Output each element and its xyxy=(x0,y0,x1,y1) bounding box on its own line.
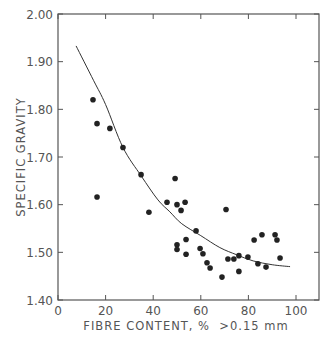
x-tick-label: 60 xyxy=(193,304,208,318)
data-point xyxy=(223,207,229,213)
data-point xyxy=(263,264,269,270)
data-points xyxy=(90,97,283,280)
data-point xyxy=(138,172,144,178)
data-point xyxy=(245,254,251,260)
x-axis-ticks: 020406080100 xyxy=(54,14,307,318)
data-point xyxy=(183,237,189,243)
fitted-curve xyxy=(76,46,290,267)
data-point xyxy=(94,194,100,200)
y-axis-label: SPECIFIC GRAVITY xyxy=(14,97,28,217)
data-point xyxy=(219,274,225,280)
scatter-chart: 1.401.501.601.701.801.902.00 02040608010… xyxy=(0,0,331,345)
data-point xyxy=(164,199,170,205)
data-point xyxy=(236,269,242,275)
data-point xyxy=(255,261,261,267)
data-point xyxy=(178,208,184,214)
x-tick-label: 40 xyxy=(146,304,161,318)
y-axis-ticks: 1.401.501.601.701.801.902.00 xyxy=(26,8,319,308)
data-point xyxy=(200,251,206,257)
data-point xyxy=(251,237,257,243)
x-tick-label: 100 xyxy=(285,304,308,318)
data-point xyxy=(231,256,237,262)
data-point xyxy=(236,253,242,259)
y-tick-label: 1.80 xyxy=(26,103,53,117)
data-point xyxy=(272,232,278,238)
data-point xyxy=(204,260,210,266)
data-point xyxy=(120,145,126,151)
y-tick-label: 1.70 xyxy=(26,151,53,165)
data-point xyxy=(225,256,231,262)
x-axis-label: FIBRE CONTENT, % >0.15 mm xyxy=(83,319,288,333)
data-point xyxy=(107,126,113,132)
y-tick-label: 1.40 xyxy=(26,294,53,308)
data-point xyxy=(183,251,189,257)
data-point xyxy=(197,246,203,252)
data-point xyxy=(277,255,283,261)
data-point xyxy=(172,176,178,182)
data-point xyxy=(94,121,100,127)
data-point xyxy=(193,228,199,234)
data-point xyxy=(174,202,180,208)
x-tick-label: 80 xyxy=(241,304,256,318)
x-tick-label: 0 xyxy=(54,304,62,318)
y-tick-label: 1.60 xyxy=(26,198,53,212)
y-tick-label: 1.90 xyxy=(26,55,53,69)
y-tick-label: 2.00 xyxy=(26,8,53,22)
data-point xyxy=(146,209,152,215)
data-point xyxy=(182,199,188,205)
y-tick-label: 1.50 xyxy=(26,246,53,260)
data-point xyxy=(274,237,280,243)
data-point xyxy=(259,232,265,238)
data-point xyxy=(90,97,96,103)
data-point xyxy=(174,247,180,253)
data-point xyxy=(174,242,180,248)
data-point xyxy=(207,265,213,271)
x-tick-label: 20 xyxy=(98,304,113,318)
